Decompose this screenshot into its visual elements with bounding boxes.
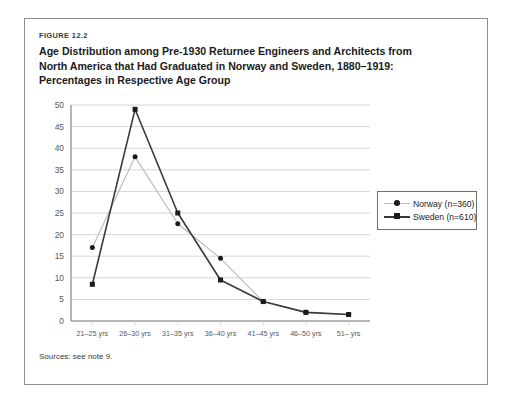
data-point	[90, 282, 95, 287]
y-axis-tick: 5	[59, 294, 64, 304]
data-point	[133, 107, 138, 112]
data-point	[133, 154, 138, 159]
x-axis-tick: 51– yrs	[337, 329, 361, 338]
series-line	[92, 157, 348, 315]
x-axis-tick: 26–30 yrs	[119, 329, 151, 338]
x-axis-tick: 41–45 yrs	[247, 329, 279, 338]
y-axis-tick: 15	[55, 251, 65, 261]
data-point	[346, 312, 351, 317]
y-axis-tick: 25	[55, 208, 65, 218]
source-note: Sources: see note 9.	[39, 352, 112, 361]
data-point	[218, 277, 223, 282]
x-axis-tick: 31–35 yrs	[162, 329, 194, 338]
series-line	[92, 109, 348, 314]
legend-marker-circle-icon	[384, 198, 410, 209]
y-axis-tick: 30	[55, 186, 65, 196]
legend-item-sweden: Sweden (n=610)	[384, 210, 469, 223]
y-axis-tick: 45	[55, 122, 65, 132]
data-point	[90, 245, 95, 250]
y-axis-tick: 0	[59, 316, 64, 326]
legend-marker-square-icon	[384, 211, 410, 222]
x-axis-tick: 36–40 yrs	[205, 329, 237, 338]
chart-legend: Norway (n=360) Sweden (n=610)	[377, 191, 477, 230]
y-axis-tick: 35	[55, 165, 65, 175]
legend-label-norway: Norway (n=360)	[410, 199, 474, 209]
y-axis-tick: 50	[55, 100, 65, 110]
y-axis-tick: 40	[55, 143, 65, 153]
data-point	[175, 221, 180, 226]
y-axis-tick: 20	[55, 230, 65, 240]
data-point	[261, 299, 266, 304]
x-axis-tick: 46–50 yrs	[290, 329, 322, 338]
legend-label-sweden: Sweden (n=610)	[410, 212, 476, 222]
legend-item-norway: Norway (n=360)	[384, 197, 469, 210]
data-point	[303, 310, 308, 315]
y-axis-tick: 10	[55, 273, 65, 283]
data-point	[218, 256, 223, 261]
data-point	[175, 211, 180, 216]
x-axis-tick: 21–25 yrs	[77, 329, 109, 338]
figure-frame: FIGURE 12.2 Age Distribution among Pre-1…	[24, 18, 488, 385]
